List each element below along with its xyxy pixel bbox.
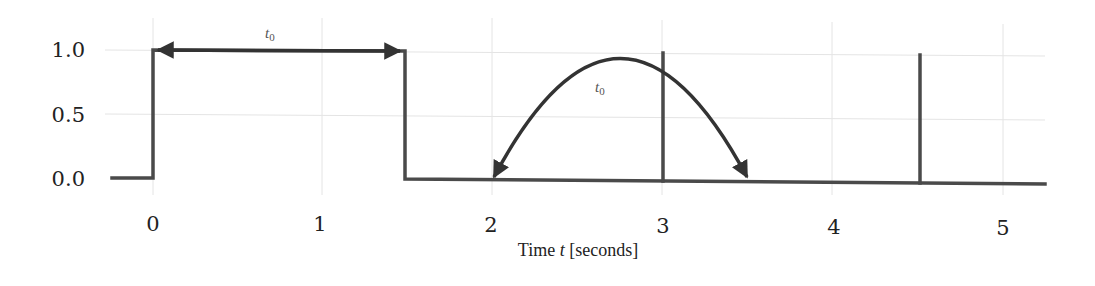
y-tick-0.0: 0.0 [52,167,85,191]
y-tick-1.0: 1.0 [52,38,85,62]
y-tick-0.5: 0.5 [52,103,85,127]
duration-arrow: t0 [158,25,400,51]
y-axis-ticks: 1.0 0.5 0.0 [52,38,85,191]
arrow-label-t0: t0 [265,25,275,43]
x-axis-label: Time t [seconds] [518,240,638,260]
x-tick-0: 0 [146,212,159,236]
grid-lines [105,18,1045,195]
x-tick-3: 3 [656,214,669,238]
x-axis-ticks: 0 1 2 3 4 5 [146,212,1009,240]
x-tick-5: 5 [996,216,1009,240]
curve-label-t0: t0 [595,79,605,97]
chart: 1.0 0.5 0.0 t0 t0 0 1 2 3 4 5 Time t [se… [0,0,1095,286]
x-tick-1: 1 [313,212,326,236]
x-tick-2: 2 [484,213,497,237]
x-tick-4: 4 [827,215,840,239]
